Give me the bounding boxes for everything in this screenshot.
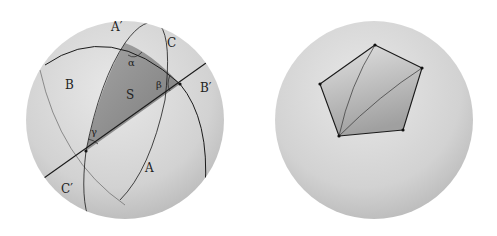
right-sphere (275, 21, 473, 219)
spherical-geometry-figure: A′ C B S B′ A C′ α β γ (0, 0, 497, 236)
label-a-prime: A′ (110, 20, 123, 34)
label-c-prime: C′ (61, 182, 73, 196)
label-s: S (126, 88, 134, 102)
label-b: B (65, 78, 74, 92)
label-c: C (167, 36, 176, 50)
label-gamma: γ (91, 126, 97, 137)
label-b-prime: B′ (200, 81, 212, 95)
label-a: A (144, 161, 154, 175)
label-beta: β (156, 79, 162, 90)
left-sphere: A′ C B S B′ A C′ α β γ (26, 20, 224, 222)
label-alpha: α (128, 57, 135, 68)
